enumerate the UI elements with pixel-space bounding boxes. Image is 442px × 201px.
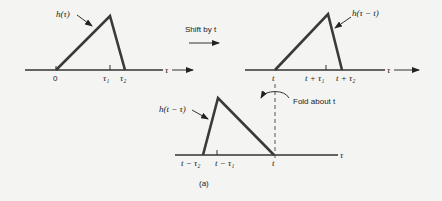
- pointer-arrow-icon: [77, 15, 92, 26]
- tick-label-t: t: [272, 158, 275, 168]
- tick-label-tau2: τ₂: [120, 73, 126, 83]
- shift-label: Shift by t: [185, 25, 217, 34]
- fold-annotation: Fold about t: [261, 84, 336, 160]
- pulse-curve: [275, 14, 342, 70]
- panel-h-tau-minus-t: τ t t + τ₁ t + τ₂ h(τ − t): [245, 8, 419, 83]
- tick-label-t: t: [272, 73, 275, 83]
- convolution-diagram: τ 0 τ₁ τ₂ h(τ) Shift by t τ t t + τ₁ t +…: [0, 0, 442, 201]
- pulse-curve: [56, 16, 125, 70]
- tick-label-tau1: τ₁: [103, 73, 109, 83]
- curve-label: h(t − τ): [159, 104, 186, 114]
- axis-label: τ: [340, 150, 344, 160]
- curve-label: h(τ): [56, 9, 70, 19]
- tick-label-t-tau1: t − τ₁: [215, 158, 234, 168]
- tick-label-t-tau2: t + τ₂: [336, 73, 355, 83]
- curve-label: h(τ − t): [352, 8, 379, 18]
- figure-caption: (a): [199, 179, 209, 188]
- shift-annotation: Shift by t: [185, 25, 219, 43]
- fold-label: Fold about t: [293, 97, 336, 106]
- axis-label: τ: [387, 65, 391, 75]
- axis-label: τ: [165, 65, 169, 75]
- tick-label-0: 0: [53, 74, 58, 83]
- pointer-arrow-icon: [192, 110, 208, 119]
- tick-label-t-tau1: t + τ₁: [305, 73, 324, 83]
- tick-label-t-tau2: t − τ₂: [181, 158, 200, 168]
- panel-h-tau: τ 0 τ₁ τ₂ h(τ): [25, 9, 193, 83]
- panel-h-t-minus-tau: τ t − τ₂ t − τ₁ t h(t − τ): [159, 98, 344, 168]
- pulse-curve: [203, 98, 274, 155]
- pointer-arrow-icon: [335, 17, 351, 28]
